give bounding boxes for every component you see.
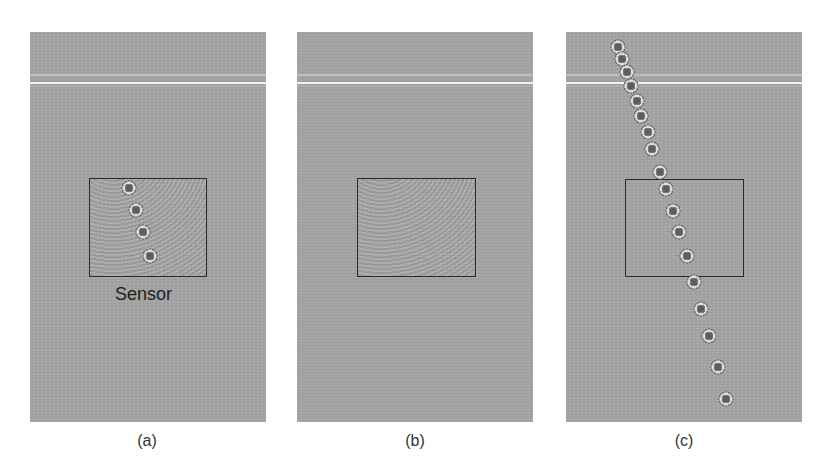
panel-c — [566, 32, 802, 422]
reference-line-faint — [297, 74, 533, 76]
particle-icon — [671, 224, 687, 240]
particle-icon — [679, 248, 695, 264]
panel-a — [30, 32, 266, 422]
reference-line — [30, 82, 266, 84]
particle-icon — [135, 224, 151, 240]
particle-icon — [652, 164, 668, 180]
particle-icon — [128, 202, 144, 218]
panel-label-a: (a) — [127, 432, 167, 450]
particle-icon — [686, 274, 702, 290]
particle-icon — [633, 108, 649, 124]
particle-icon — [710, 359, 726, 375]
particle-icon — [693, 301, 709, 317]
panel-label-b: (b) — [395, 432, 435, 450]
reference-line-shadow — [566, 86, 802, 87]
particle-icon — [701, 328, 717, 344]
panel-b — [297, 32, 533, 422]
panel-label-c: (c) — [664, 432, 704, 450]
particle-icon — [644, 141, 660, 157]
particle-icon — [718, 391, 734, 407]
reference-line-shadow — [297, 86, 533, 87]
sensor-region — [357, 178, 476, 277]
reference-line-shadow — [30, 86, 266, 87]
particle-icon — [658, 181, 674, 197]
particle-icon — [640, 124, 656, 140]
particle-icon — [623, 78, 639, 94]
particle-icon — [665, 203, 681, 219]
reference-line — [566, 82, 802, 84]
reference-line — [297, 82, 533, 84]
particle-icon — [142, 248, 158, 264]
reference-line-faint — [30, 74, 266, 76]
sensor-label: Sensor — [115, 284, 172, 305]
reference-line-faint — [566, 74, 802, 76]
particle-icon — [121, 180, 137, 196]
particle-icon — [629, 93, 645, 109]
